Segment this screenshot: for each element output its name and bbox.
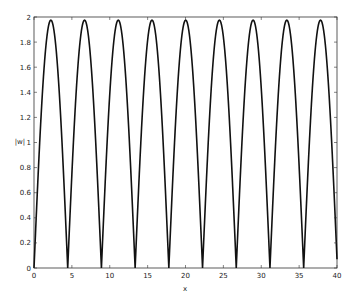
y-tick-label: 0.2: [20, 239, 31, 247]
x-axis-label: x: [183, 285, 187, 293]
x-tick-label: 20: [181, 272, 190, 280]
y-tick-label: 1.2: [20, 114, 31, 122]
x-tick-label: 5: [70, 272, 74, 280]
y-tick-label: 0.6: [20, 189, 32, 197]
data-line: [34, 20, 337, 268]
y-tick-label: 2: [27, 14, 31, 22]
x-tick-label: 10: [105, 272, 114, 280]
x-tick-label: 40: [333, 272, 342, 280]
y-tick-label: 1.8: [20, 39, 31, 47]
y-tick-label: 1.4: [20, 89, 32, 97]
x-tick-label: 35: [295, 272, 304, 280]
y-ticks: 00.20.40.60.811.21.41.61.82: [20, 14, 337, 273]
x-tick-label: 30: [257, 272, 266, 280]
y-tick-label: 1: [27, 139, 31, 147]
y-tick-label: 1.6: [20, 64, 32, 72]
x-tick-label: 0: [32, 272, 36, 280]
y-axis-label: |w|: [15, 138, 25, 146]
y-tick-label: 0: [27, 265, 31, 273]
y-tick-label: 0.4: [20, 214, 32, 222]
y-tick-label: 0.8: [20, 164, 31, 172]
x-tick-label: 25: [219, 272, 228, 280]
line-chart: 0510152025303540 00.20.40.60.811.21.41.6…: [0, 0, 355, 297]
x-tick-label: 15: [143, 272, 152, 280]
